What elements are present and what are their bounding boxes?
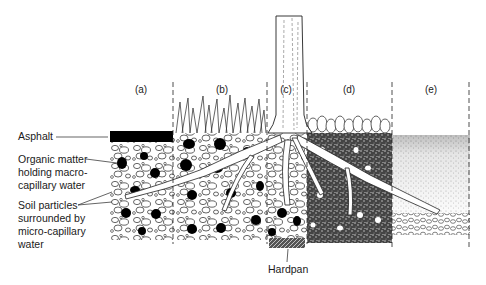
panel-label-d: (d): [334, 84, 364, 95]
panel-label-a: (a): [126, 84, 156, 95]
label-organic-2: holding macro-: [18, 166, 87, 179]
leader-hardpan: [287, 249, 288, 262]
label-hardpan: Hardpan: [268, 263, 308, 276]
asphalt-layer: [110, 131, 173, 142]
label-organic-3: capillary water: [18, 179, 85, 192]
leader-soil-1: [78, 192, 112, 205]
label-asphalt: Asphalt: [18, 130, 53, 143]
panel-label-b: (b): [207, 84, 237, 95]
gravel-layer: [392, 213, 470, 235]
grass: [176, 95, 266, 133]
label-soil-2: surrounded by: [18, 212, 85, 225]
leader-soil-2: [78, 202, 112, 205]
groundcover: [308, 116, 390, 133]
soil-diagram: [0, 0, 486, 285]
tree-trunk: [268, 16, 312, 133]
label-soil-1: Soil particles: [18, 199, 78, 212]
panel-label-c: (c): [271, 84, 301, 95]
panel-label-e: (e): [416, 84, 446, 95]
label-organic-1: Organic matter: [18, 153, 87, 166]
label-soil-3: micro-capillary: [18, 225, 86, 238]
hardpan-layer: [269, 238, 305, 248]
label-soil-4: water: [18, 238, 44, 251]
